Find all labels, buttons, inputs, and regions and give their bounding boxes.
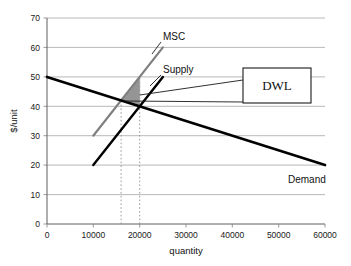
x-tick-label-60000: 60000 bbox=[313, 230, 337, 240]
y-tick-label-20: 20 bbox=[31, 160, 41, 170]
x-tick-label-10000: 10000 bbox=[81, 230, 105, 240]
msc-label: MSC bbox=[163, 31, 185, 42]
x-tick-label-30000: 30000 bbox=[174, 230, 198, 240]
y-tick-label-0: 0 bbox=[35, 219, 40, 229]
y-tick-label-50: 50 bbox=[31, 72, 41, 82]
x-tick-label-50000: 50000 bbox=[267, 230, 291, 240]
x-tick-label-0: 0 bbox=[45, 230, 50, 240]
supply-label: Supply bbox=[163, 64, 194, 75]
y-tick-label-10: 10 bbox=[31, 190, 41, 200]
supply-demand-externality-chart: 70 60 50 40 30 20 10 0 0 10000 20000 300… bbox=[0, 0, 351, 266]
dwl-callout-label: DWL bbox=[262, 78, 292, 93]
x-axis-title: quantity bbox=[169, 245, 203, 256]
x-tick-label-40000: 40000 bbox=[220, 230, 244, 240]
y-axis-title: $/unit bbox=[8, 109, 19, 133]
y-tick-label-60: 60 bbox=[31, 43, 41, 53]
x-tick-label-20000: 20000 bbox=[128, 230, 152, 240]
y-tick-label-40: 40 bbox=[31, 102, 41, 112]
y-tick-label-70: 70 bbox=[31, 13, 41, 23]
y-tick-label-30: 30 bbox=[31, 131, 41, 141]
demand-label: Demand bbox=[288, 174, 326, 185]
